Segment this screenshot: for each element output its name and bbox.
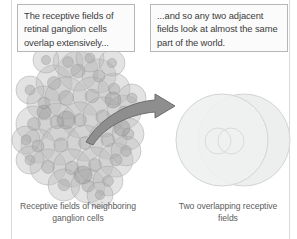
callout-right: ...and so any two adjacent fields look a… bbox=[150, 4, 288, 52]
receptive-field-cluster bbox=[12, 44, 146, 208]
caption-left: Receptive fields of neighboring ganglion… bbox=[8, 201, 148, 224]
two-overlapping-fields bbox=[176, 94, 290, 186]
receptive-fields-figure: The receptive fields of retinal ganglion… bbox=[0, 0, 297, 239]
caption-right: Two overlapping receptive fields bbox=[172, 201, 284, 224]
callout-left: The receptive fields of retinal ganglion… bbox=[17, 4, 135, 52]
